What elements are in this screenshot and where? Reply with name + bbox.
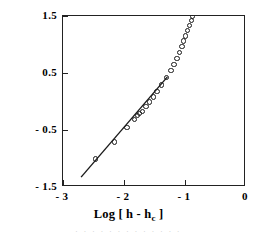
data-point (124, 125, 129, 130)
data-point (147, 99, 152, 104)
data-point (183, 33, 188, 38)
plot-area (63, 16, 244, 185)
page-bleed-text: · · · · · · · · · · · · · (0, 228, 257, 235)
y-axis-tick-label: - 0.5 (20, 124, 57, 135)
x-axis-tick-label: - 3 (42, 191, 82, 202)
x-axis-tick-label: - 1 (164, 191, 204, 202)
data-point (154, 89, 159, 94)
data-point (171, 62, 176, 67)
figure-chart: Log[(σ - qc ) / qc ] Log [ h - hc ] 1.50… (0, 0, 257, 235)
y-axis-tick (63, 73, 68, 74)
data-point (93, 156, 98, 161)
y-axis-tick-label: - 1.5 (20, 181, 57, 192)
data-point (143, 104, 148, 109)
x-axis-tick-label: 0 (225, 191, 257, 202)
data-point (174, 56, 179, 61)
x-axis-tick (185, 180, 186, 185)
data-point (179, 44, 184, 49)
y-axis-tick-label: 0.5 (20, 67, 57, 78)
data-point (151, 94, 156, 99)
data-point (140, 109, 145, 114)
x-axis-tick-label: - 2 (103, 191, 143, 202)
x-axis-tick (63, 180, 64, 185)
y-axis-tick (63, 130, 68, 131)
y-axis-tick (63, 16, 68, 17)
y-axis-tick-label: 1.5 (20, 10, 57, 21)
x-axis-tick (124, 180, 125, 185)
data-point (159, 82, 164, 87)
fit-line (63, 16, 244, 185)
x-axis-label: Log [ h - hc ] (0, 207, 257, 223)
data-point (168, 68, 173, 73)
plot-frame (62, 15, 245, 186)
